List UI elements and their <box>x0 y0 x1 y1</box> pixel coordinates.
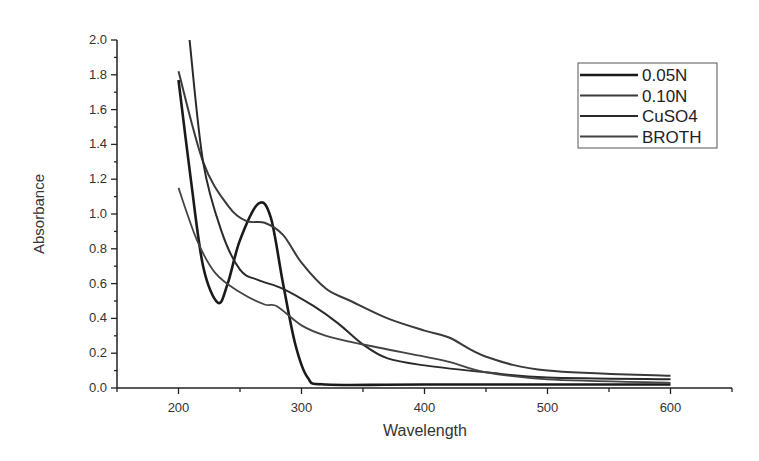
y-tick-label: 0.0 <box>89 380 107 395</box>
x-axis-label: Wavelength <box>383 422 467 439</box>
y-tick-label: 0.2 <box>89 345 107 360</box>
legend-label: 0.05N <box>642 66 687 85</box>
y-tick-label: 0.8 <box>89 241 107 256</box>
absorbance-chart: 2003004005006000.00.20.40.60.81.01.21.41… <box>0 0 759 461</box>
y-tick-label: 2.0 <box>89 32 107 47</box>
y-tick-label: 1.8 <box>89 67 107 82</box>
legend-label: BROTH <box>642 128 702 147</box>
legend: 0.05N0.10NCuSO4BROTH <box>578 63 717 148</box>
x-tick-label: 200 <box>168 400 190 415</box>
series-line-3 <box>179 188 671 383</box>
legend-label: 0.10N <box>642 87 687 106</box>
y-tick-label: 1.2 <box>89 171 107 186</box>
y-tick-label: 0.4 <box>89 310 107 325</box>
x-tick-label: 300 <box>291 400 313 415</box>
y-tick-label: 1.0 <box>89 206 107 221</box>
y-tick-label: 0.6 <box>89 276 107 291</box>
x-tick-label: 500 <box>537 400 559 415</box>
y-tick-label: 1.6 <box>89 102 107 117</box>
legend-label: CuSO4 <box>642 107 698 126</box>
y-tick-label: 1.4 <box>89 136 107 151</box>
y-axis-label: Absorbance <box>30 174 47 254</box>
x-tick-label: 600 <box>660 400 682 415</box>
x-tick-label: 400 <box>414 400 436 415</box>
